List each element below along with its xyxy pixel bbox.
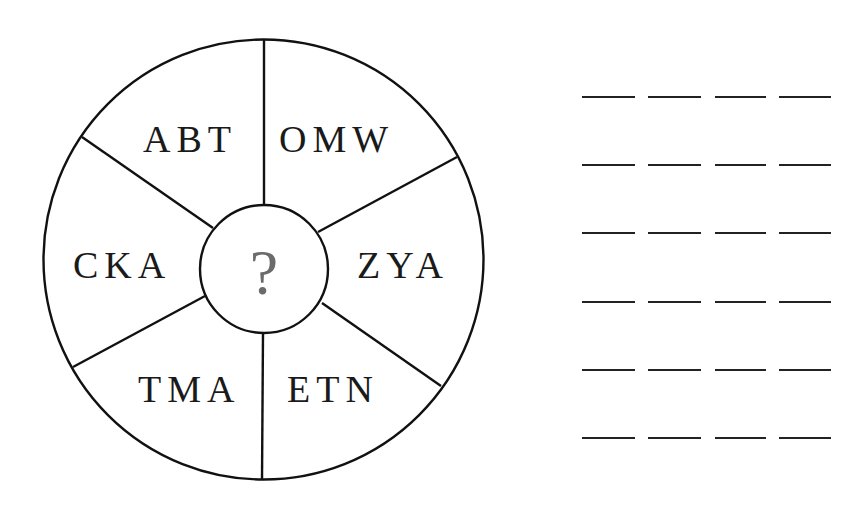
- spoke-bottom: [262, 333, 263, 480]
- segment-bottom-left: TMA: [138, 368, 240, 410]
- letter-wheel: ABT OMW ZYA ETN TMA CKA ?: [44, 39, 484, 480]
- segment-left: CKA: [73, 244, 171, 286]
- answer-blanks: [582, 97, 831, 438]
- question-mark-icon: ?: [250, 237, 278, 308]
- spoke-upper-right: [318, 157, 457, 232]
- segment-bottom-right: ETN: [287, 368, 379, 410]
- segment-right: ZYA: [357, 244, 449, 286]
- spoke-lower-left: [73, 296, 205, 367]
- segment-top-left: ABT: [143, 118, 237, 160]
- puzzle-canvas: ABT OMW ZYA ETN TMA CKA ?: [0, 0, 865, 513]
- segment-top-right: OMW: [279, 118, 394, 160]
